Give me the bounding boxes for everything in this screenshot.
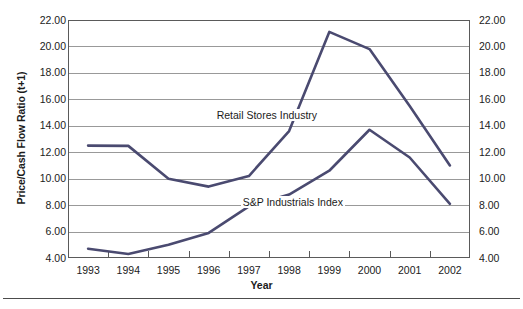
x-tick-label: 2001 xyxy=(390,265,430,276)
y-tick-label-right: 14.00 xyxy=(479,120,505,131)
y-tick-label-right: 16.00 xyxy=(479,94,505,105)
chart-figure: Price/Cash Flow Ratio (t+1) 22.0020.0018… xyxy=(0,0,523,309)
y-tick-label-left: 10.00 xyxy=(40,173,66,184)
y-tick-label-left: 12.00 xyxy=(40,147,66,158)
x-tick-label: 2002 xyxy=(430,265,470,276)
x-tick-label: 1994 xyxy=(108,265,148,276)
x-tick-label: 1996 xyxy=(189,265,229,276)
annotation-sp-industrials-index: S&P Industrials Index xyxy=(241,196,345,208)
y-tick-label-left: 22.00 xyxy=(40,15,66,26)
y-tick-label-right: 6.00 xyxy=(479,226,499,237)
annotation-retail-stores-industry: Retail Stores Industry xyxy=(215,109,319,121)
bottom-divider xyxy=(3,298,520,299)
y-tick-label-right: 4.00 xyxy=(479,253,499,264)
y-tick-label-left: 4.00 xyxy=(46,253,66,264)
x-axis-title: Year xyxy=(0,279,523,291)
y-tick-label-left: 14.00 xyxy=(40,120,66,131)
plot-area: Retail Stores Industry S&P Industrials I… xyxy=(68,20,470,258)
y-tick-label-right: 22.00 xyxy=(479,15,505,26)
plot-svg xyxy=(68,20,470,258)
x-tick-label: 1993 xyxy=(68,265,108,276)
y-tick-label-right: 20.00 xyxy=(479,41,505,52)
y-tick-label-left: 18.00 xyxy=(40,67,66,78)
x-tick-label: 1999 xyxy=(309,265,349,276)
y-tick-label-left: 20.00 xyxy=(40,41,66,52)
x-tick-label: 1995 xyxy=(149,265,189,276)
y-tick-label-left: 8.00 xyxy=(46,200,66,211)
y-axis-title: Price/Cash Flow Ratio (t+1) xyxy=(14,18,28,258)
x-tick-label: 2000 xyxy=(350,265,390,276)
y-tick-label-right: 12.00 xyxy=(479,147,505,158)
y-tick-label-right: 10.00 xyxy=(479,173,505,184)
plot-frame xyxy=(69,21,470,258)
x-tick-label: 1997 xyxy=(229,265,269,276)
y-tick-label-right: 18.00 xyxy=(479,67,505,78)
y-tick-label-left: 6.00 xyxy=(46,226,66,237)
y-tick-label-left: 16.00 xyxy=(40,94,66,105)
y-tick-label-right: 8.00 xyxy=(479,200,499,211)
x-tick-label: 1998 xyxy=(269,265,309,276)
